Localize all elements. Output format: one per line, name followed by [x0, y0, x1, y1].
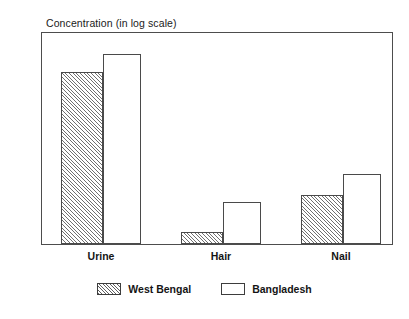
x-tick-label-hair: Hair — [161, 250, 281, 262]
bar-hair-west-bengal — [181, 232, 223, 244]
bar-urine-west-bengal — [61, 72, 103, 244]
x-tick-label-urine: Urine — [41, 250, 161, 262]
chart-title: Concentration (in log scale) — [46, 17, 177, 29]
legend-entry-bangladesh: Bangladesh — [221, 283, 312, 295]
legend-label-west-bengal: West Bengal — [128, 283, 191, 295]
plot-area — [41, 32, 393, 245]
chart-figure: Concentration (in log scale) 1000 100 10… — [0, 0, 409, 319]
hatched-swatch-icon — [97, 283, 121, 295]
bar-hair-bangladesh — [223, 202, 261, 244]
bar-nail-bangladesh — [343, 174, 381, 244]
open-swatch-icon — [221, 283, 245, 295]
chart-legend: West Bengal Bangladesh — [0, 283, 409, 295]
bar-urine-bangladesh — [103, 54, 141, 244]
legend-label-bangladesh: Bangladesh — [252, 283, 312, 295]
bars-layer — [42, 33, 392, 244]
bar-nail-west-bengal — [301, 195, 343, 244]
x-tick-label-nail: Nail — [281, 250, 401, 262]
legend-entry-west-bengal: West Bengal — [97, 283, 191, 295]
